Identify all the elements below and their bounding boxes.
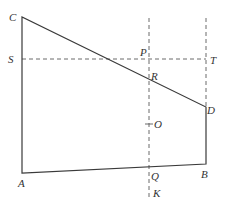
label-k: K xyxy=(153,188,160,199)
label-r: R xyxy=(151,71,158,82)
label-b: B xyxy=(201,169,208,180)
label-o: O xyxy=(154,119,162,130)
label-p: P xyxy=(140,47,147,58)
quadrilateral-abdc xyxy=(22,17,206,173)
label-t: T xyxy=(210,55,216,66)
label-s: S xyxy=(8,54,14,65)
geometry-diagram xyxy=(0,0,227,206)
label-a: A xyxy=(18,178,25,189)
label-q: Q xyxy=(151,171,159,182)
label-c: C xyxy=(9,12,16,23)
label-d: D xyxy=(207,105,215,116)
